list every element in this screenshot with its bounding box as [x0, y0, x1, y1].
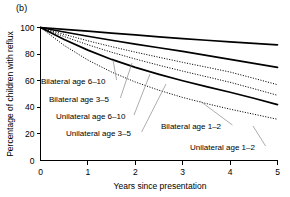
y-axis-ticks: 020406080100 — [20, 23, 40, 166]
series-label-bilateral-age-6-10: Bilateral age 6–10 — [41, 77, 106, 86]
x-tick-label: 2 — [133, 167, 138, 177]
line-chart: 020406080100 012345 Bilateral age 6–10Bi… — [0, 0, 290, 197]
series-label-bilateral-age-1-2: Bilateral age 1–2 — [161, 122, 222, 131]
x-axis-title: Years since presentation — [114, 181, 207, 191]
y-tick-label: 20 — [25, 129, 35, 139]
leader-line — [134, 74, 150, 115]
series-label-unilateral-age-6-10: Unilateral age 6–10 — [56, 112, 126, 121]
data-series — [41, 28, 278, 120]
y-tick-label: 80 — [25, 49, 35, 59]
leader-line — [120, 63, 132, 98]
x-tick-label: 4 — [228, 167, 233, 177]
y-tick-label: 0 — [30, 156, 35, 166]
x-tick-label: 3 — [180, 167, 185, 177]
leader-line — [113, 60, 117, 80]
series-line-bilateral-age-3-5 — [41, 28, 278, 68]
series-line-unilateral-age-1-2 — [41, 28, 278, 120]
figure-panel: (b) 020406080100 012345 Bilateral age 6–… — [0, 0, 290, 197]
series-label-bilateral-age-3-5: Bilateral age 3–5 — [49, 95, 110, 104]
series-line-bilateral-age-6-10 — [41, 28, 278, 45]
series-label-unilateral-age-1-2: Unilateral age 1–2 — [190, 143, 255, 152]
y-axis-title: Percentage of children with reflux — [5, 30, 15, 156]
y-tick-label: 60 — [25, 76, 35, 86]
y-tick-label: 100 — [20, 23, 34, 33]
y-tick-label: 40 — [25, 102, 35, 112]
series-line-bilateral-age-1-2 — [41, 28, 278, 105]
series-label-unilateral-age-3-5: Unilateral age 3–5 — [66, 129, 131, 138]
x-tick-label: 0 — [38, 167, 43, 177]
x-axis-ticks: 012345 — [38, 161, 280, 177]
annotation-leader-lines — [113, 60, 266, 146]
x-tick-label: 5 — [275, 167, 280, 177]
x-tick-label: 1 — [86, 167, 91, 177]
series-annotations: Bilateral age 6–10Bilateral age 3–5Unila… — [41, 77, 255, 152]
